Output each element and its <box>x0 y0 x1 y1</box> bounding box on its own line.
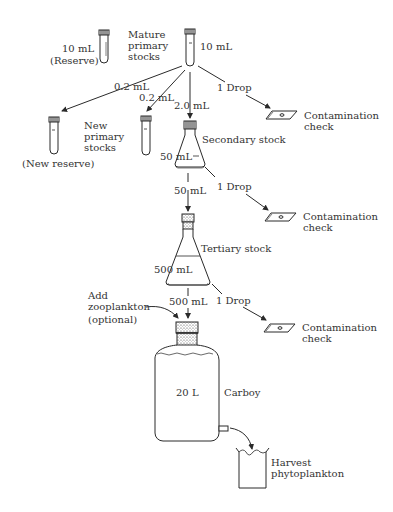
mature-primary-tube-icon <box>185 29 195 66</box>
add-zooplankton-label-2: zooplankton <box>88 301 150 312</box>
mature-volume-label: 10 mL <box>200 41 232 52</box>
drop-3-label: 1 Drop <box>216 295 251 306</box>
mature-primary-label-2: primary <box>128 40 168 51</box>
transfer-reserve-label: 0.2 mL <box>114 81 149 92</box>
drop-1-label: 1 Drop <box>217 82 252 93</box>
contamination-check-2-label-2: check <box>303 222 333 233</box>
new-primary-label-3: stocks <box>84 142 116 153</box>
contamination-check-3-label: Contamination <box>302 322 377 333</box>
transfer-tertiary-label: 50 mL <box>174 185 206 196</box>
mature-primary-label-1: Mature <box>128 29 165 40</box>
contamination-check-1-label: Contamination <box>304 110 379 121</box>
harvest-beaker-icon <box>236 448 269 488</box>
new-reserve-tube-icon <box>49 117 59 154</box>
new-primary-label-1: New <box>84 120 107 131</box>
slide-1-icon <box>266 111 297 119</box>
add-zooplankton-label-1: Add <box>88 290 108 301</box>
slide-2-icon <box>265 213 296 221</box>
mature-primary-label-3: stocks <box>128 51 160 62</box>
contamination-check-2-label: Contamination <box>303 211 378 222</box>
contamination-check-1-label-2: check <box>304 121 334 132</box>
reserve-label: (Reserve) <box>50 55 99 66</box>
secondary-volume-label: 50 mL <box>160 151 192 162</box>
secondary-stock-label: Secondary stock <box>202 134 286 145</box>
add-zooplankton-label-3: (optional) <box>88 314 137 325</box>
reserve-volume-label: 10 mL <box>62 43 94 54</box>
carboy-volume-label: 20 L <box>176 387 199 398</box>
diagram-canvas <box>0 0 393 512</box>
new-primary-label-2: primary <box>84 131 124 142</box>
tertiary-stock-label: Tertiary stock <box>201 243 271 254</box>
transfer-carboy-label: 500 mL <box>169 296 207 307</box>
drop-2-label: 1 Drop <box>217 181 252 192</box>
harvest-label-2: phytoplankton <box>271 468 344 479</box>
reserve-tube-icon <box>99 30 109 63</box>
new-reserve-label: (New reserve) <box>22 158 94 169</box>
slide-3-icon <box>264 324 295 332</box>
transfer-primary-label: 0.2 mL <box>139 92 174 103</box>
carboy-icon <box>155 322 228 441</box>
contamination-check-3-label-2: check <box>302 333 332 344</box>
tertiary-volume-label: 500 mL <box>154 264 192 275</box>
harvest-label-1: Harvest <box>271 457 311 468</box>
new-primary-tube-icon <box>141 116 151 155</box>
transfer-secondary-label: 2.0 mL <box>174 100 209 111</box>
carboy-label: Carboy <box>224 387 260 398</box>
